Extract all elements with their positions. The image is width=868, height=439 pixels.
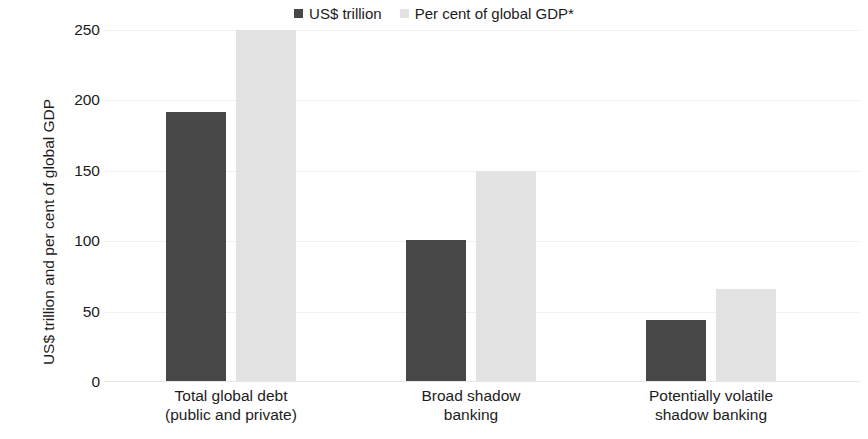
bar-us-trillion-broad-shadow-banking[interactable] [406,240,466,381]
x-label-potentially-volatile-shadow-banking: Potentially volatile shadow banking [591,386,831,424]
x-label-line2: banking [351,405,591,424]
y-axis-title: US$ trillion and per cent of global GDP [38,72,60,392]
legend-label: Per cent of global GDP* [415,6,574,21]
y-axis-tick-labels: 0 50 100 150 200 250 [58,24,100,439]
y-axis-title-text: US$ trillion and per cent of global GDP [40,99,58,365]
x-label-line1: Total global debt [175,387,288,404]
y-tick-label: 0 [91,374,100,390]
y-tick-label: 100 [74,233,100,249]
y-tick-label: 50 [83,304,100,320]
x-label-line1: Potentially volatile [649,387,773,404]
plot-area [104,30,860,382]
x-label-line2: shadow banking [591,405,831,424]
legend-label: US$ trillion [309,6,382,21]
x-label-total-global-debt: Total global debt (public and private) [111,386,351,424]
y-tick-label: 150 [74,163,100,179]
legend-entry-us-trillion: US$ trillion [294,6,382,21]
y-tick-label: 200 [74,93,100,109]
x-label-line1: Broad shadow [421,387,520,404]
square-marker-icon [294,9,303,18]
square-marker-icon [400,9,409,18]
bar-chart: US$ trillion and per cent of global GDP … [0,24,868,439]
x-axis-category-labels: Total global debt (public and private) B… [104,386,860,438]
legend-entry-per-cent-global-gdp: Per cent of global GDP* [400,6,574,21]
axis-baseline [104,381,860,382]
x-label-line2: (public and private) [111,405,351,424]
gridline-250 [104,30,860,31]
bar-per-cent-gdp-broad-shadow-banking[interactable] [476,171,536,381]
bar-us-trillion-potentially-volatile-shadow-banking[interactable] [646,320,706,381]
gridline-200 [104,100,860,101]
chart-legend: US$ trillion Per cent of global GDP* [0,2,868,24]
x-label-broad-shadow-banking: Broad shadow banking [351,386,591,424]
bar-per-cent-gdp-potentially-volatile-shadow-banking[interactable] [716,289,776,381]
bar-us-trillion-total-global-debt[interactable] [166,112,226,381]
bar-per-cent-gdp-total-global-debt[interactable] [236,30,296,381]
y-tick-label: 250 [74,22,100,38]
